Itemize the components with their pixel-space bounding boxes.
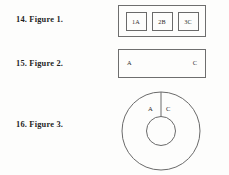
figure-3-right-label: C xyxy=(166,105,170,112)
figure-1-cell-row: 1A 2B 3C xyxy=(119,6,205,36)
figure-3-caption: 16. Figure 3. xyxy=(16,120,63,129)
figure-3-left-label: A xyxy=(148,105,153,112)
figure-1-cell: 2B xyxy=(152,12,173,31)
figure-3-annulus: A C xyxy=(121,88,201,174)
figure-2-right-label: C xyxy=(193,59,197,66)
figure-1-outer-box: 1A 2B 3C xyxy=(118,5,206,37)
figure-1-cell: 1A xyxy=(126,12,147,31)
figure-1-caption: 14. Figure 1. xyxy=(16,15,63,24)
figure-1-cell: 3C xyxy=(178,12,199,31)
figure-3-annulus-graphic xyxy=(121,88,201,174)
figure-2-caption: 15. Figure 2. xyxy=(16,59,63,68)
figure-2-rectangle: A C xyxy=(118,49,206,78)
inner-circle xyxy=(147,117,176,146)
figure-2-left-label: A xyxy=(127,59,132,66)
document-page: 14. Figure 1. 1A 2B 3C 15. Figure 2. A C… xyxy=(0,0,229,175)
